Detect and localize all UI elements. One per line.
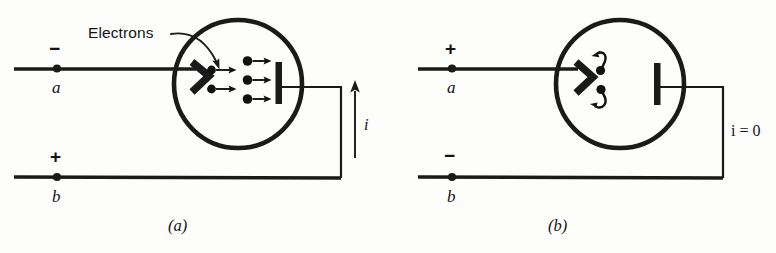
panel-b-terminal-dot-b	[448, 173, 456, 181]
electron-particle	[590, 85, 606, 109]
electron-return-arrowhead	[590, 102, 600, 109]
panel-a-anode-plate	[276, 62, 283, 104]
panel-a-tube-envelope	[174, 20, 302, 148]
electron-particle	[207, 85, 236, 94]
panel-b-caption: (b)	[548, 218, 567, 235]
panel-b-node-label-a: a	[447, 79, 456, 96]
panel-b-top-terminal-sign: +	[445, 39, 456, 58]
panel-a-bottom-wire	[14, 177, 341, 178]
panel-a	[14, 20, 360, 181]
electron-particle	[207, 66, 236, 75]
panel-a-bottom-terminal-sign: +	[50, 147, 61, 166]
panel-b-current-label: i = 0	[731, 123, 760, 139]
panel-b-node-label-b: b	[447, 188, 456, 205]
figure-root: Electrons − a + b i (a) + a − b i = 0 (b…	[0, 0, 776, 253]
electrons-annotation-label: Electrons	[88, 25, 154, 41]
panel-b-terminal-dot-a	[448, 64, 456, 72]
panel-a-node-label-a: a	[52, 79, 61, 96]
panel-b-anode-lead	[657, 87, 723, 178]
panel-a-node-label-b: b	[52, 188, 61, 205]
electron-particle	[243, 94, 272, 104]
panel-b-anode-plate	[654, 63, 661, 105]
electron-particle	[243, 75, 272, 85]
electron-particle	[243, 56, 272, 66]
panel-b	[418, 20, 723, 181]
panel-a-terminal-dot-a	[53, 64, 61, 72]
panel-a-caption: (a)	[168, 218, 187, 235]
panel-a-anode-lead	[279, 87, 341, 178]
panel-a-top-terminal-sign: −	[49, 39, 60, 58]
electron-particle	[592, 50, 606, 75]
electron-return-arc	[596, 94, 606, 108]
panel-a-current-label: i	[364, 117, 368, 133]
panel-b-tube-envelope	[556, 20, 684, 148]
panel-a-current-arrow-head	[350, 80, 360, 93]
panel-a-cathode-chevron	[192, 62, 209, 92]
panel-b-bottom-wire	[418, 177, 723, 178]
panel-b-cathode-chevron	[576, 62, 593, 93]
panel-b-bottom-terminal-sign: −	[444, 146, 455, 165]
panel-a-terminal-dot-b	[53, 173, 61, 181]
